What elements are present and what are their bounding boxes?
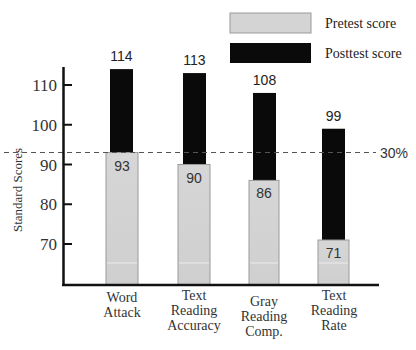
x-category-label: Word [107,290,138,305]
y-tick-label: 100 [32,116,58,135]
posttest-value-label: 114 [110,48,133,64]
legend: Pretest score Posttest score [230,13,402,63]
y-axis-label: Standard Scores [10,148,25,232]
y-tick-label: 80 [40,195,57,214]
y-tick-label: 110 [32,76,57,95]
x-category-label: Gray [250,294,278,309]
x-category-label: Reading [171,303,218,318]
reference-line-label: 30% [380,145,408,161]
x-category-label: Text [322,288,347,303]
pretest-value-label: 90 [186,170,202,186]
pretest-value-label: 71 [326,245,342,261]
x-category-label: Rate [321,318,347,333]
x-category-label: Attack [103,305,140,320]
x-axis-labels: WordAttackTextReadingAccuracyGrayReading… [103,288,357,339]
x-category-label: Text [182,288,207,303]
pretest-value-label: 86 [256,185,272,201]
x-category-label: Reading [241,309,288,324]
x-category-label: Comp. [245,324,283,339]
x-category-label: Accuracy [167,318,221,333]
y-tick-label: 90 [40,156,57,175]
y-tick-label: 70 [40,235,57,254]
y-axis-ticks: 708090100110 [32,76,73,254]
pretest-value-label: 93 [114,158,130,174]
bars: 1149311390108869971 [106,48,349,285]
legend-label-posttest: Posttest score [325,46,402,61]
legend-swatch-posttest [230,43,311,63]
legend-label-pretest: Pretest score [325,16,396,31]
x-category-label: Reading [311,303,358,318]
bar-chart: Pretest score Posttest score Standard Sc… [0,0,416,350]
posttest-value-label: 113 [183,52,206,68]
legend-swatch-pretest [230,13,311,33]
posttest-value-label: 99 [326,108,342,124]
posttest-value-label: 108 [253,72,277,88]
